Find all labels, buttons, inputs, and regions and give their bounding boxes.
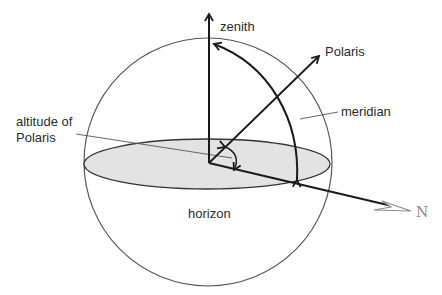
horizon-plane <box>84 139 330 189</box>
meridian-leader-line <box>300 112 338 119</box>
meridian-label: meridian <box>341 104 391 119</box>
altitude-label-line1: altitude of <box>16 114 73 129</box>
zenith-label: zenith <box>220 19 255 34</box>
polaris-label: Polaris <box>325 44 365 59</box>
altitude-label-line2: Polaris <box>16 130 56 145</box>
horizon-label: horizon <box>188 206 231 221</box>
north-label: N <box>416 204 428 220</box>
celestial-sphere-diagram: zenith Polaris meridian altitude of Pola… <box>0 0 442 295</box>
